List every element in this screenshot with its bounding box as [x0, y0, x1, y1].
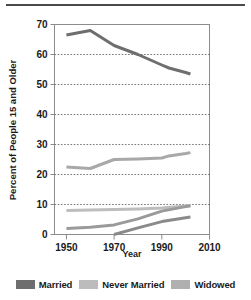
- chart-svg: 010203040506070 1950197019902010 Percent…: [0, 10, 251, 260]
- y-axis-title: Percent of People 15 and Older: [7, 59, 18, 200]
- series-line-separated: [114, 217, 190, 234]
- y-tick-label-60: 60: [36, 49, 48, 60]
- legend-label-widowed: Widowed: [194, 279, 235, 290]
- x-tick-label-2010: 2010: [198, 242, 221, 253]
- legend-item-widowed[interactable]: Widowed: [171, 279, 235, 290]
- gridlines: [55, 55, 210, 205]
- legend-swatch-married: [16, 280, 35, 289]
- x-tick-label-1990: 1990: [151, 242, 174, 253]
- y-tick-label-40: 40: [36, 109, 48, 120]
- legend-swatch-widowed: [171, 280, 190, 289]
- legend-label-married: Married: [39, 279, 73, 290]
- y-tick-label-50: 50: [36, 79, 48, 90]
- y-tick-label-70: 70: [36, 19, 48, 30]
- series-line-never-married: [66, 153, 190, 169]
- legend-item-married[interactable]: Married: [16, 279, 73, 290]
- x-axis-title: Year: [122, 249, 142, 259]
- plot-frame: [55, 25, 210, 235]
- top-divider-rule: [6, 4, 245, 6]
- legend-label-never-married: Never Married: [102, 279, 164, 290]
- series-line-married: [66, 31, 190, 75]
- chart-figure: 010203040506070 1950197019902010 Percent…: [0, 0, 251, 300]
- y-axis-ticks: 010203040506070: [36, 19, 54, 240]
- legend-item-never-married[interactable]: Never Married: [79, 279, 164, 290]
- legend-swatch-never-married: [79, 280, 98, 289]
- data-series-lines: [66, 31, 190, 235]
- y-tick-label-30: 30: [36, 139, 48, 150]
- chart-legend: Married Never Married Widowed: [0, 272, 251, 296]
- line-chart: 010203040506070 1950197019902010 Percent…: [0, 10, 251, 260]
- y-tick-label-0: 0: [42, 229, 48, 240]
- y-tick-label-10: 10: [36, 199, 48, 210]
- x-tick-label-1950: 1950: [55, 242, 78, 253]
- y-tick-label-20: 20: [36, 169, 48, 180]
